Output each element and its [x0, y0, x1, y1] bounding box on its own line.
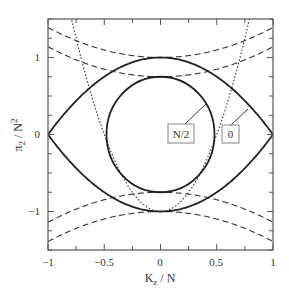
leader-line: [231, 109, 248, 125]
outer-boundary-lower: [48, 135, 273, 212]
dashed-curve-outer-lower: [48, 212, 273, 242]
dashed-curve-inner-lower: [48, 192, 273, 222]
annotation-zero: 0: [222, 109, 248, 143]
dotted-parabola: [48, 0, 273, 212]
y-tick-labels: 1 0 −1: [28, 51, 40, 217]
y-tick-label: −1: [28, 205, 40, 217]
y-tick-label: 0: [35, 128, 41, 140]
y-tick-label: 1: [35, 51, 41, 63]
x-tick-labels: −1 −0.5 0 0.5 1: [42, 256, 276, 268]
inner-ellipse: [107, 77, 215, 193]
leader-line: [185, 103, 207, 124]
x-axis-label: Kz / N: [145, 271, 176, 287]
dashed-curve-outer-upper: [48, 27, 273, 57]
annotation-n-half: N/2: [168, 103, 207, 143]
annotation-label: N/2: [173, 128, 190, 140]
x-tick-label: −0.5: [94, 256, 114, 268]
chart: −1 −0.5 0 0.5 1 1 0 −1 Kz / N π2 / N2 N/…: [0, 0, 289, 298]
x-tick-label: 0: [157, 256, 163, 268]
annotation-label: 0: [228, 128, 234, 140]
plot-curves: [48, 0, 273, 242]
x-tick-label: −1: [42, 256, 54, 268]
x-tick-label: 1: [270, 256, 276, 268]
y-axis-label: π2 / N2: [9, 118, 27, 151]
outer-boundary-upper: [48, 58, 273, 135]
x-tick-label: 0.5: [209, 256, 223, 268]
